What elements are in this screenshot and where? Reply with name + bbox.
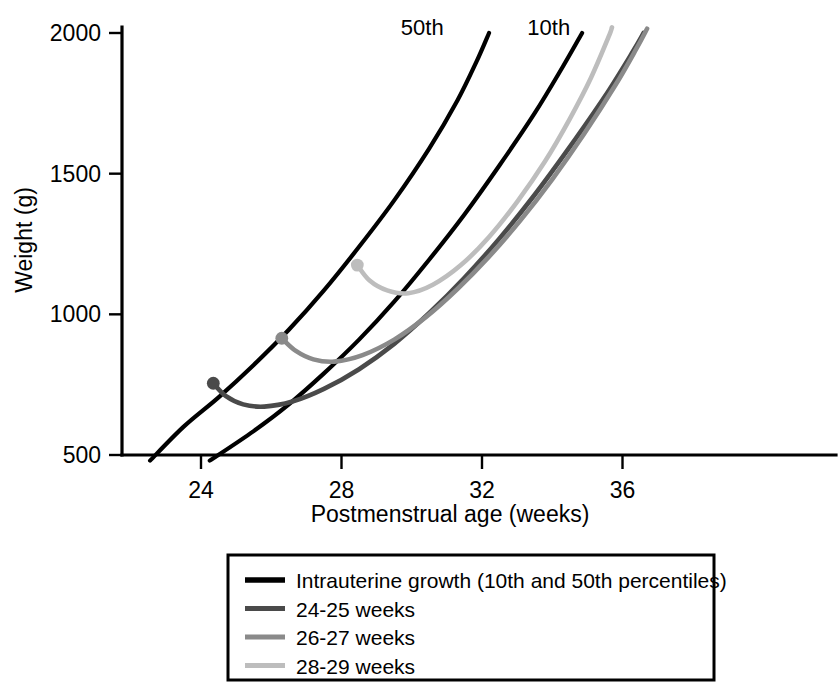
series-line: [213, 33, 643, 407]
legend-label: 28-29 weeks: [296, 655, 415, 678]
series-line: [210, 33, 582, 461]
series-24-25-weeks: [207, 33, 644, 407]
y-axis-title: Weight (g): [11, 187, 37, 293]
x-tick-label: 32: [469, 477, 495, 503]
legend-label: 24-25 weeks: [296, 598, 415, 621]
percentile-10-label: 10th: [527, 15, 570, 40]
series-10th: [210, 33, 582, 461]
x-tick-label: 36: [610, 477, 636, 503]
chart-canvas: 50010001500200024283236 Postmenstrual ag…: [0, 0, 840, 693]
chart-legend: Intrauterine growth (10th and 50th perce…: [228, 555, 727, 680]
x-tick-label: 28: [329, 477, 355, 503]
y-tick-label: 2000: [50, 20, 101, 46]
x-tick-label: 24: [188, 477, 214, 503]
series-layer: [150, 27, 647, 460]
series-28-29-weeks: [351, 27, 612, 293]
series-start-marker: [351, 259, 364, 272]
legend-label: 26-27 weeks: [296, 626, 415, 649]
legend-item-intrauterine-growth-10th-and-50th-percentiles[interactable]: Intrauterine growth (10th and 50th perce…: [245, 569, 727, 592]
axes-layer: 50010001500200024283236: [50, 20, 836, 503]
series-start-marker: [207, 377, 220, 390]
y-tick-label: 1000: [50, 301, 101, 327]
growth-chart-figure: 50010001500200024283236 Postmenstrual ag…: [0, 0, 840, 693]
y-tick-label: 1500: [50, 161, 101, 187]
percentile-50-label: 50th: [401, 15, 444, 40]
series-start-marker: [275, 332, 288, 345]
legend-label: Intrauterine growth (10th and 50th perce…: [296, 569, 727, 592]
x-axis-title: Postmenstrual age (weeks): [311, 501, 590, 527]
y-tick-label: 500: [63, 442, 101, 468]
